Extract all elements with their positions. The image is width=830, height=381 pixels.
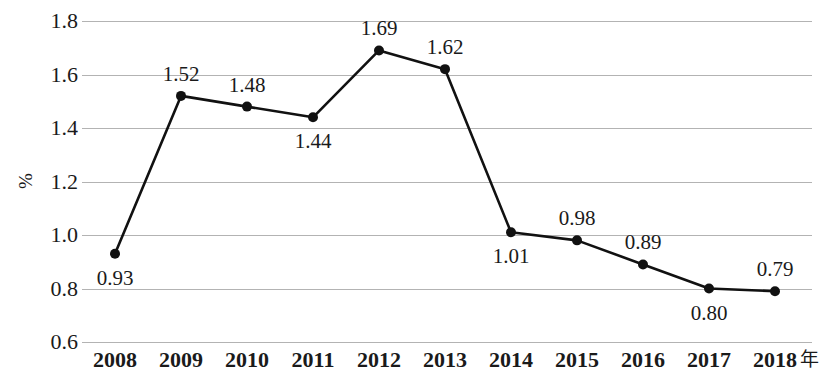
data-point-label: 0.89	[608, 232, 678, 253]
data-point-label: 1.69	[344, 18, 414, 39]
data-point-marker	[638, 259, 648, 269]
data-point-label: 0.79	[740, 259, 810, 280]
data-point-label: 0.80	[674, 303, 744, 324]
data-point-marker	[506, 227, 516, 237]
data-point-label: 1.48	[212, 75, 282, 96]
data-point-marker	[110, 249, 120, 259]
data-point-marker	[704, 284, 714, 294]
data-point-label: 1.62	[410, 37, 480, 58]
data-point-label: 1.52	[146, 64, 216, 85]
data-point-marker	[572, 235, 582, 245]
data-point-marker	[242, 102, 252, 112]
data-point-marker	[308, 112, 318, 122]
data-point-marker	[770, 286, 780, 296]
data-point-label: 1.44	[278, 131, 348, 152]
line-chart: % 1.81.61.41.21.00.80.6 2008200920102011…	[0, 0, 830, 381]
data-point-label: 0.93	[80, 268, 150, 289]
data-point-label: 1.01	[476, 246, 546, 267]
data-point-marker	[176, 91, 186, 101]
data-point-marker	[374, 45, 384, 55]
data-point-label: 0.98	[542, 208, 612, 229]
data-point-marker	[440, 64, 450, 74]
